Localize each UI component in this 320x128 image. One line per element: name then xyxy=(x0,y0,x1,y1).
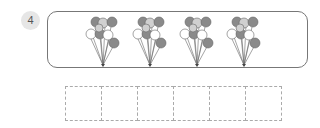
balloon-bunch-icon xyxy=(85,15,121,67)
answer-box[interactable] xyxy=(137,86,174,121)
balloon-clusters xyxy=(85,15,262,67)
balloon-bunch-icon xyxy=(226,15,262,67)
answer-box[interactable] xyxy=(101,86,138,121)
balloon-bunch-icon xyxy=(179,15,215,67)
answer-box[interactable] xyxy=(209,86,246,121)
question-number-badge: 4 xyxy=(21,11,40,30)
answer-box[interactable] xyxy=(245,86,282,121)
answer-boxes xyxy=(65,86,282,121)
answer-box[interactable] xyxy=(65,86,102,121)
answer-box[interactable] xyxy=(173,86,210,121)
balloon-bunch-icon xyxy=(132,15,168,67)
